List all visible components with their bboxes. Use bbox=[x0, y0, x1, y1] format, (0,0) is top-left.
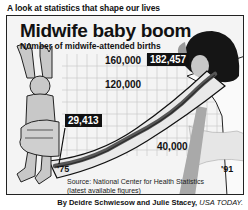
kicker-text: A look at statistics that shape our live… bbox=[7, 3, 160, 13]
x-tick-start: '75 bbox=[57, 164, 69, 174]
chart-title: Midwife baby boom bbox=[20, 20, 191, 42]
chart-frame: Midwife baby boom Number of midwife-atte… bbox=[6, 15, 244, 195]
byline: By Deidre Schwiesow and Julie Stacey, US… bbox=[57, 198, 243, 207]
y-tick-160000: 160,000 bbox=[105, 55, 141, 66]
y-tick-120000: 120,000 bbox=[105, 79, 141, 90]
byline-outlet: USA TODAY. bbox=[199, 198, 243, 207]
chart-subtitle: Number of midwife-attended births bbox=[20, 41, 161, 51]
callout-end-value: 182,457 bbox=[147, 53, 189, 66]
callout-start-value: 29,413 bbox=[65, 114, 102, 127]
byline-authors: By Deidre Schwiesow and Julie Stacey, bbox=[57, 198, 199, 207]
source-line-1: Source: National Center for Health Stati… bbox=[67, 178, 204, 187]
baby-figure bbox=[17, 43, 57, 184]
y-tick-40000: 40,000 bbox=[157, 141, 188, 152]
source-note: Source: National Center for Health Stati… bbox=[67, 178, 204, 195]
source-line-2: (latest available figures) bbox=[67, 187, 204, 196]
x-tick-end: '91 bbox=[221, 164, 233, 174]
